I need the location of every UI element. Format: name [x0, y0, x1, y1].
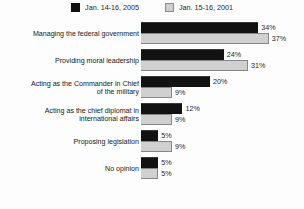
- bar-row-series-b: 9%: [141, 114, 304, 125]
- bar-series-b: [141, 87, 172, 98]
- bar-row-series-a: 5%: [141, 130, 304, 141]
- bar-series-b: [141, 141, 172, 152]
- bar-value-series-b: 5%: [161, 169, 171, 178]
- bar-series-a: [141, 130, 158, 141]
- bar-pair: 24% 31%: [141, 49, 304, 73]
- bar-group: Acting as the chief diplomat in internat…: [0, 103, 304, 127]
- bar-value-series-b: 31%: [251, 61, 265, 70]
- bar-pair: 5% 9%: [141, 130, 304, 154]
- bar-series-a: [141, 103, 182, 114]
- bar-value-series-a: 5%: [161, 158, 171, 167]
- bar-group: Managing the federal government 34% 37%: [0, 22, 304, 46]
- bar-pair: 5% 5%: [141, 157, 304, 181]
- bar-group: Providing moral leadership 24% 31%: [0, 49, 304, 73]
- legend-item-series-a: Jan. 14-16, 2005: [71, 3, 139, 12]
- bar-series-a: [141, 49, 224, 60]
- legend-label-series-b: Jan. 15-16, 2001: [179, 3, 233, 12]
- bar-pair: 20% 9%: [141, 76, 304, 100]
- category-label: Providing moral leadership: [0, 57, 141, 65]
- plot-area: Managing the federal government 34% 37% …: [0, 22, 304, 207]
- bar-row-series-a: 34%: [141, 22, 304, 33]
- bar-value-series-a: 5%: [161, 131, 171, 140]
- chart-legend: Jan. 14-16, 2005 Jan. 15-16, 2001: [0, 3, 304, 12]
- bar-row-series-b: 9%: [141, 141, 304, 152]
- category-label: Acting as the chief diplomat in internat…: [0, 107, 141, 124]
- bar-row-series-a: 5%: [141, 157, 304, 168]
- category-label: No opinion: [0, 165, 141, 173]
- bar-series-b: [141, 168, 158, 179]
- bar-value-series-b: 37%: [272, 34, 286, 43]
- bar-series-a: [141, 76, 210, 87]
- legend-label-series-a: Jan. 14-16, 2005: [85, 3, 139, 12]
- legend-swatch-icon-series-b: [165, 3, 174, 12]
- bar-value-series-a: 34%: [261, 23, 275, 32]
- bar-series-a: [141, 22, 258, 33]
- bar-group: Proposing legislation 5% 9%: [0, 130, 304, 154]
- bar-value-series-a: 20%: [213, 77, 227, 86]
- bar-value-series-a: 12%: [185, 104, 199, 113]
- bar-chart: Jan. 14-16, 2005 Jan. 15-16, 2001 Managi…: [0, 0, 304, 209]
- bar-row-series-b: 37%: [141, 33, 304, 44]
- legend-swatch-icon-series-a: [71, 3, 80, 12]
- bar-value-series-b: 9%: [175, 142, 185, 151]
- bar-row-series-b: 31%: [141, 60, 304, 71]
- bar-row-series-b: 9%: [141, 87, 304, 98]
- bar-series-a: [141, 157, 158, 168]
- category-label: Acting as the Commander in Chief of the …: [0, 80, 141, 97]
- bar-value-series-a: 24%: [227, 50, 241, 59]
- bar-row-series-a: 20%: [141, 76, 304, 87]
- bar-row-series-a: 12%: [141, 103, 304, 114]
- bar-value-series-b: 9%: [175, 88, 185, 97]
- bar-series-b: [141, 114, 172, 125]
- bar-row-series-a: 24%: [141, 49, 304, 60]
- bar-pair: 12% 9%: [141, 103, 304, 127]
- category-label: Proposing legislation: [0, 138, 141, 146]
- bar-series-b: [141, 60, 248, 71]
- bar-row-series-b: 5%: [141, 168, 304, 179]
- bar-series-b: [141, 33, 269, 44]
- bar-group: Acting as the Commander in Chief of the …: [0, 76, 304, 100]
- bar-group: No opinion 5% 5%: [0, 157, 304, 181]
- legend-item-series-b: Jan. 15-16, 2001: [165, 3, 233, 12]
- bar-value-series-b: 9%: [175, 115, 185, 124]
- bar-pair: 34% 37%: [141, 22, 304, 46]
- category-label: Managing the federal government: [0, 30, 141, 38]
